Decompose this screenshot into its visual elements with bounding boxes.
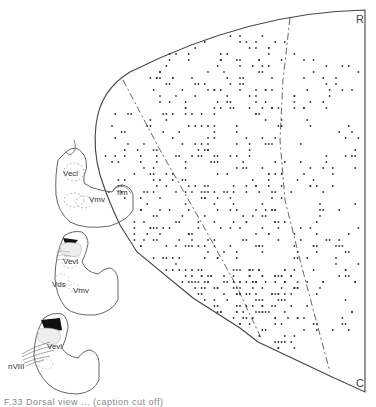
neuron-dot [223,251,225,253]
neuron-dot [210,275,212,277]
neuron-dot [284,269,286,271]
neuron-dot [281,185,283,187]
neuron-dot [255,299,257,301]
neuron-dot [198,149,200,151]
neuron-dot [262,107,264,109]
neuron-dot [178,257,180,259]
neuron-dot [242,311,244,313]
neuron-dot [217,305,219,307]
figure-caption-fragment: F.33 Dorsal view ... (caption cut off) [4,397,163,407]
neuron-dot [348,233,350,235]
neuron-dot [194,47,196,49]
neuron-dot [207,89,209,91]
neuron-dot [294,347,296,349]
neuron-dot [255,47,257,49]
neuron-dot [150,125,152,127]
neuron-dot [156,155,158,157]
neuron-dot [118,179,120,181]
neuron-dot [233,275,235,277]
label-vevl-bottom: Vevl [47,343,62,351]
neuron-dot [236,125,238,127]
neuron-dot [191,77,193,79]
neuron-dot [239,287,241,289]
neuron-dot [223,281,225,283]
neuron-dot [185,203,187,205]
neuron-dot [242,215,244,217]
neuron-dot [249,269,251,271]
neuron-dot [326,107,328,109]
neuron-dot [258,59,260,61]
neuron-dot [191,191,193,193]
neuron-dot [175,95,177,97]
neuron-dot [198,245,200,247]
neuron-dot [255,185,257,187]
neuron-dot [156,185,158,187]
neuron-dot [169,59,171,61]
neuron-dot [169,227,171,229]
neuron-dot [166,173,168,175]
neuron-dot [239,89,241,91]
neuron-dot [214,221,216,223]
neuron-dot [140,245,142,247]
neuron-dot [297,281,299,283]
neuron-dot [249,47,251,49]
neuron-dot [268,47,270,49]
neuron-dot [162,257,164,259]
neuron-dot [274,305,276,307]
neuron-dot [153,149,155,151]
neuron-dot [258,191,260,193]
neuron-dot [278,221,280,223]
neuron-dot [262,305,264,307]
neuron-dot [239,41,241,43]
neuron-dot [358,263,360,265]
neuron-dot [310,101,312,103]
neuron-dot [185,269,187,271]
neuron-dot [230,83,232,85]
neuron-dot [185,167,187,169]
neuron-dot [316,185,318,187]
neuron-dot [166,257,168,259]
neuron-dot [114,137,116,139]
neuron-dot [143,167,145,169]
neuron-dot [121,131,123,133]
neuron-dot [204,197,206,199]
neuron-dot [194,281,196,283]
neuron-dot [262,215,264,217]
neuron-dot [326,239,328,241]
neuron-dot [169,209,171,211]
neuron-dot [258,71,260,73]
neuron-dot [201,155,203,157]
neuron-dot [230,209,232,211]
neuron-dot [175,191,177,193]
neuron-dot [220,59,222,61]
neuron-dot [194,287,196,289]
neuron-dot [214,191,216,193]
neuron-dot [258,311,260,313]
label-vevl-middle: Vevl [63,258,78,266]
neuron-dot [207,191,209,193]
neuron-dot [204,257,206,259]
neuron-dot [281,59,283,61]
neuron-dot [140,197,142,199]
neuron-dot [313,59,315,61]
neuron-dot [255,209,257,211]
neuron-dot [290,341,292,343]
neuron-dot [198,281,200,283]
neuron-dot [249,149,251,151]
neuron-dot [258,335,260,337]
neuron-dot [239,293,241,295]
neuron-dot [159,197,161,199]
neuron-dot [156,215,158,217]
inset-middle-section [55,232,118,316]
neuron-dot [226,281,228,283]
neuron-dot [278,275,280,277]
neuron-dot [172,113,174,115]
neuron-dot [166,245,168,247]
rostral-label: R [356,14,364,25]
label-vds: Vds [52,281,66,289]
neuron-dot [166,113,168,115]
neuron-dot [201,197,203,199]
neuron-dot [166,269,168,271]
neuron-dot [268,185,270,187]
neuron-dot [172,173,174,175]
